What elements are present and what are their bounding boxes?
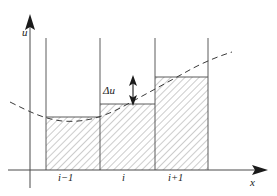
tick-label-i-minus-1: i−1 (58, 172, 73, 183)
tick-label-i: i (122, 172, 125, 183)
step-bar-i-plus-1 (155, 77, 208, 170)
diagram-canvas (0, 0, 277, 196)
step-bars (46, 77, 208, 170)
y-axis (25, 14, 35, 188)
delta-u-label: Δu (103, 84, 115, 96)
x-axis-label: x (250, 176, 255, 188)
figure-container: u x i−1 i i+1 Δu (0, 0, 277, 196)
y-axis-label: u (22, 26, 28, 38)
delta-u-arrow (129, 75, 137, 106)
step-bar-i-minus-1 (46, 117, 100, 170)
tick-label-i-plus-1: i+1 (168, 172, 183, 183)
